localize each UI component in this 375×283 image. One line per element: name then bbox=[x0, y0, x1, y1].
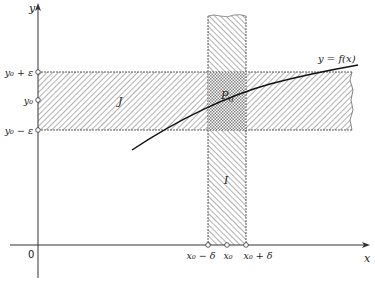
y-tick-center-label: y₀ bbox=[23, 95, 33, 106]
x-axis-label: x bbox=[364, 252, 371, 265]
x-tick-center-label: x₀ bbox=[223, 250, 232, 261]
x-tick-center-marker bbox=[225, 243, 230, 248]
x-tick-right-marker bbox=[244, 243, 249, 248]
diagram-canvas: y x 0 y₀ + ε y₀ y₀ − ε x₀ − δ x₀ x₀ + δ … bbox=[0, 0, 375, 283]
origin-label: 0 bbox=[28, 249, 34, 260]
y-tick-center-marker bbox=[36, 98, 41, 103]
y-tick-lower-marker bbox=[36, 128, 41, 133]
y-tick-lower-label: y₀ − ε bbox=[4, 125, 33, 136]
y-tick-upper-marker bbox=[36, 70, 41, 75]
x-tick-left-marker bbox=[206, 243, 211, 248]
region-j-label: J bbox=[116, 95, 123, 108]
y-tick-upper-label: y₀ + ε bbox=[4, 67, 33, 78]
x-tick-right-label: x₀ + δ bbox=[244, 250, 273, 261]
region-i-label: I bbox=[223, 174, 229, 187]
curve-label: y = f(x) bbox=[317, 53, 356, 64]
x-tick-left-label: x₀ − δ bbox=[187, 250, 216, 261]
point-p0-subscript: 0 bbox=[228, 95, 233, 104]
y-axis-label: y bbox=[28, 2, 36, 15]
horizontal-band-j bbox=[38, 72, 353, 130]
